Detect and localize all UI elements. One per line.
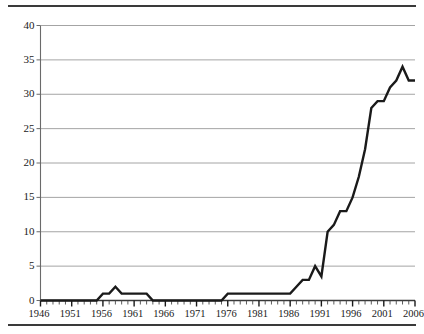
x-tick-label: 1981 — [247, 308, 268, 319]
y-tick-label: 10 — [9, 226, 35, 237]
y-tick-label: 35 — [9, 54, 35, 65]
x-tick-label: 1991 — [309, 308, 330, 319]
y-tick-label: 30 — [9, 88, 35, 99]
x-tick-label: 1961 — [122, 308, 143, 319]
x-tick-label: 1966 — [153, 308, 174, 319]
x-tick-label: 1956 — [91, 308, 112, 319]
line-chart-figure: 0510152025303540 19461951195619611966197… — [0, 0, 424, 334]
y-tick-label: 5 — [9, 260, 35, 271]
x-tick-label: 2001 — [372, 308, 393, 319]
y-tick-label: 25 — [9, 123, 35, 134]
chart-plot-area — [0, 0, 424, 334]
gridlines-group — [41, 26, 416, 267]
y-tick-label: 40 — [9, 20, 35, 31]
y-tick-label: 15 — [9, 191, 35, 202]
y-tick-label: 20 — [9, 157, 35, 168]
x-tick-label: 1986 — [278, 308, 299, 319]
x-tick-label: 1996 — [341, 308, 362, 319]
data-series-group — [41, 67, 416, 301]
x-tick-label: 1946 — [29, 308, 50, 319]
x-tick-label: 1951 — [60, 308, 81, 319]
y-axis-ticks-group — [37, 26, 41, 301]
data-line-value — [41, 67, 416, 301]
y-tick-label: 0 — [9, 295, 35, 306]
x-tick-label: 2006 — [403, 308, 424, 319]
x-tick-label: 1971 — [185, 308, 206, 319]
x-tick-label: 1976 — [216, 308, 237, 319]
